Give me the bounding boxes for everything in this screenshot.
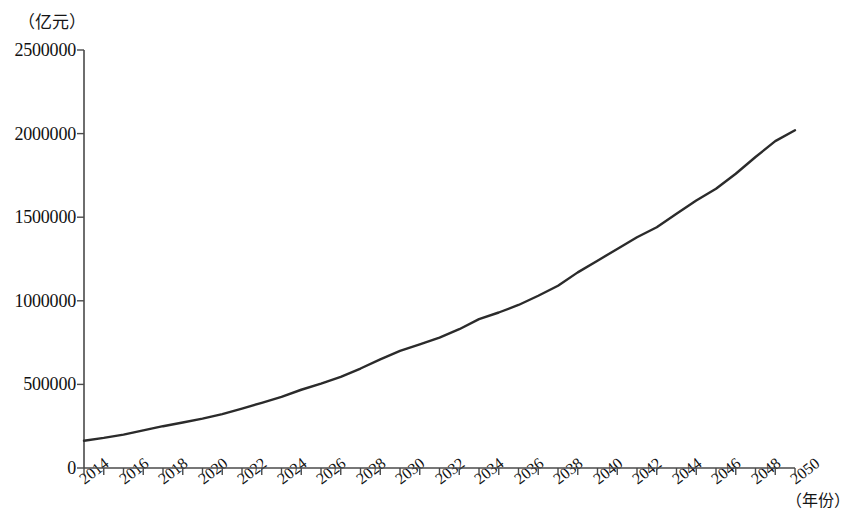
plot-area — [0, 0, 851, 522]
chart-container: （亿元） （年份） 050000010000001500000200000025… — [0, 0, 851, 522]
data-series-group — [84, 130, 795, 440]
y-tick-marks — [77, 50, 84, 468]
x-tick-marks — [84, 468, 795, 475]
series-line-0 — [84, 130, 795, 440]
axes — [77, 50, 795, 475]
